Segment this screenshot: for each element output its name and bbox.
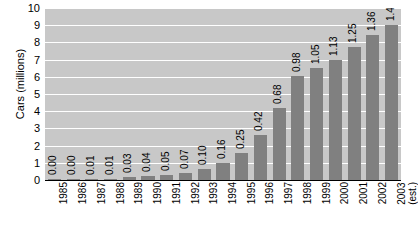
bar-value-label-1986: 0.00 [67, 156, 77, 175]
x-axis-tick-1988: 1988 [115, 182, 126, 204]
x-axis-tick-1986: 1986 [77, 182, 88, 204]
x-axis-tick-year: 1991 [171, 182, 182, 204]
x-axis-tick-year: 1988 [115, 182, 126, 204]
bar-group-1988: 0.01 [101, 8, 120, 180]
bar-group-1986: 0.00 [64, 8, 83, 180]
x-axis-tick-1992: 1992 [190, 182, 201, 204]
bar-value-label-1998: 0.98 [292, 52, 302, 71]
bar-1999 [310, 68, 323, 180]
bar-value-label-1994: 0.16 [217, 140, 227, 159]
y-axis-tick-7: 7 [18, 54, 40, 65]
x-axis-line [45, 180, 401, 181]
x-axis-tick-year: 2002 [377, 182, 388, 204]
bar-value-label-1997: 0.68 [273, 84, 283, 103]
x-axis-tick-year: 2000 [339, 182, 350, 204]
y-axis-tick-1: 1 [18, 157, 40, 168]
y-axis-tick-5: 5 [18, 89, 40, 100]
x-axis-tick-1997: 1997 [283, 182, 294, 204]
x-axis-tick-year: 1987 [96, 182, 107, 204]
x-axis-tick-note: (est.) [407, 182, 418, 205]
x-axis-tick-year: 1994 [227, 182, 238, 204]
bar-value-label-1996: 0.42 [254, 112, 264, 131]
x-axis-tick-year: 1990 [152, 182, 163, 204]
y-axis-tick-9: 9 [18, 20, 40, 31]
x-axis-tick-1996: 1996 [264, 182, 275, 204]
bar-value-label-1999: 1.05 [311, 45, 321, 64]
bar-value-label-1991: 0.05 [161, 151, 171, 170]
x-axis-tick-year: 1998 [302, 182, 313, 204]
bar-group-1987: 0.01 [82, 8, 101, 180]
bar-group-1996: 0.42 [251, 8, 270, 180]
bar-group-1998: 0.98 [289, 8, 308, 180]
x-axis-tick-year: 1996 [264, 182, 275, 204]
bar-1993 [198, 169, 211, 180]
x-axis-tick-year: 1985 [58, 182, 69, 204]
bar-group-2000: 1.13 [326, 8, 345, 180]
bar-value-label-2002: 1.36 [367, 12, 377, 31]
bar-value-label-1990: 0.04 [142, 152, 152, 171]
bar-group-1990: 0.04 [139, 8, 158, 180]
x-axis-tick-1995: 1995 [246, 182, 257, 204]
bar-group-1999: 1.05 [307, 8, 326, 180]
bar-group-1997: 0.68 [270, 8, 289, 180]
x-axis-tick-1993: 1993 [208, 182, 219, 204]
x-axis-tick-1987: 1987 [96, 182, 107, 204]
bar-1996 [254, 135, 267, 180]
bar-1994 [216, 163, 229, 180]
x-axis-tick-year: 1993 [208, 182, 219, 204]
bar-group-1994: 0.16 [214, 8, 233, 180]
x-axis-tick-year: 1989 [133, 182, 144, 204]
x-axis-tick-year: 1999 [321, 182, 332, 204]
bar-value-label-1995: 0.25 [236, 130, 246, 149]
bar-2001 [348, 47, 361, 180]
bar-value-label-2003: 1.45 [386, 8, 396, 21]
bar-group-2002: 1.36 [364, 8, 383, 180]
x-axis-tick-year: 2003 [396, 183, 407, 205]
bar-group-1993: 0.10 [195, 8, 214, 180]
bars-layer: 0.000.000.010.010.030.040.050.070.100.16… [45, 8, 401, 180]
x-axis-tick-1994: 1994 [227, 182, 238, 204]
bar-group-1991: 0.05 [157, 8, 176, 180]
bar-1995 [235, 153, 248, 180]
bar-2002 [366, 35, 379, 180]
y-axis-tick-2: 2 [18, 140, 40, 151]
y-axis-tick-6: 6 [18, 71, 40, 82]
bar-1998 [291, 76, 304, 180]
bar-value-label-1987: 0.01 [86, 156, 96, 175]
bar-group-1995: 0.25 [232, 8, 251, 180]
x-axis-tick-1998: 1998 [302, 182, 313, 204]
y-axis-tick-8: 8 [18, 37, 40, 48]
plot-area: 0.000.000.010.010.030.040.050.070.100.16… [45, 8, 401, 180]
y-axis-tick-0: 0 [18, 175, 40, 186]
x-axis-tick-1990: 1990 [152, 182, 163, 204]
bar-value-label-1989: 0.03 [123, 153, 133, 172]
x-axis-tick-1991: 1991 [171, 182, 182, 204]
x-axis-tick-year: 1995 [246, 182, 257, 204]
x-axis-tick-1989: 1989 [133, 182, 144, 204]
bar-value-label-2000: 1.13 [329, 36, 339, 55]
x-axis-tick-year: 2001 [358, 182, 369, 204]
bar-group-2003: 1.45 [382, 8, 401, 180]
bar-value-label-2001: 1.25 [348, 23, 358, 42]
x-axis-tick-1985: 1985 [58, 182, 69, 204]
x-axis-tick-2000: 2000 [339, 182, 350, 204]
x-axis-tick-labels: 1985198619871988198919901991199219931994… [45, 182, 401, 237]
bar-1992 [179, 173, 192, 180]
bar-1997 [273, 108, 286, 180]
bar-group-2001: 1.25 [345, 8, 364, 180]
x-axis-tick-2003: 2003(est.) [396, 182, 418, 205]
x-axis-tick-year: 1992 [190, 182, 201, 204]
y-axis-tick-10: 10 [18, 3, 40, 14]
bar-value-label-1993: 0.10 [198, 146, 208, 165]
y-axis-tick-3: 3 [18, 123, 40, 134]
bar-value-label-1985: 0.00 [48, 156, 58, 175]
bar-group-1989: 0.03 [120, 8, 139, 180]
bar-2003 [385, 25, 398, 180]
bar-2000 [329, 60, 342, 180]
x-axis-tick-year: 1997 [283, 182, 294, 204]
y-axis-tick-4: 4 [18, 106, 40, 117]
bar-group-1985: 0.00 [45, 8, 64, 180]
bar-value-label-1992: 0.07 [180, 149, 190, 168]
x-axis-tick-year: 1986 [77, 182, 88, 204]
